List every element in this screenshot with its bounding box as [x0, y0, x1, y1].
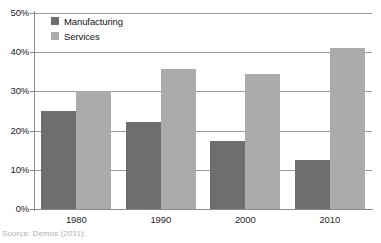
- bar-services-1990[interactable]: [161, 69, 196, 209]
- x-axis-tick-label-1980: 1980: [51, 214, 101, 225]
- bar-manufacturing-1990[interactable]: [126, 122, 161, 209]
- legend-item-manufacturing[interactable]: Manufacturing: [51, 15, 171, 27]
- bar-services-1980[interactable]: [76, 91, 111, 209]
- legend-label-manufacturing: Manufacturing: [64, 16, 123, 27]
- bar-group-2010: [295, 13, 365, 209]
- source-caption: Source: Demos (2011).: [2, 229, 86, 238]
- chart-legend: Manufacturing Services: [51, 15, 171, 45]
- y-tick-mark-30%: [30, 91, 34, 92]
- y-tick-mark-10%: [30, 170, 34, 171]
- chart-figure: 0%10%20%30%40%50% 1980199020002010 Manuf…: [0, 0, 381, 243]
- legend-swatch-manufacturing-icon: [51, 17, 59, 25]
- y-axis-tick-label: 40%: [0, 47, 29, 57]
- bar-group-2000: [210, 13, 280, 209]
- legend-swatch-services-icon: [51, 32, 59, 40]
- y-tick-mark-0%: [30, 209, 34, 210]
- bar-services-2000[interactable]: [245, 74, 280, 209]
- y-tick-mark-40%: [30, 52, 34, 53]
- y-tick-mark-20%: [30, 131, 34, 132]
- y-axis-line: [34, 11, 35, 211]
- bar-manufacturing-2000[interactable]: [210, 141, 245, 209]
- y-axis-tick-label: 0%: [0, 204, 29, 214]
- y-axis-tick-label: 20%: [0, 126, 29, 136]
- y-axis-tick-label: 50%: [0, 8, 29, 18]
- y-axis-tick-label: 30%: [0, 86, 29, 96]
- x-axis-tick-label-1990: 1990: [136, 214, 186, 225]
- x-axis-tick-label-2000: 2000: [220, 214, 270, 225]
- y-tick-mark-50%: [30, 13, 34, 14]
- legend-item-services[interactable]: Services: [51, 30, 171, 42]
- legend-label-services: Services: [64, 31, 100, 42]
- bar-services-2010[interactable]: [330, 48, 365, 210]
- x-axis-line: [34, 209, 373, 210]
- bar-manufacturing-1980[interactable]: [41, 111, 76, 209]
- x-axis-tick-label-2010: 2010: [305, 214, 355, 225]
- bar-manufacturing-2010[interactable]: [295, 160, 330, 209]
- y-axis-tick-label: 10%: [0, 165, 29, 175]
